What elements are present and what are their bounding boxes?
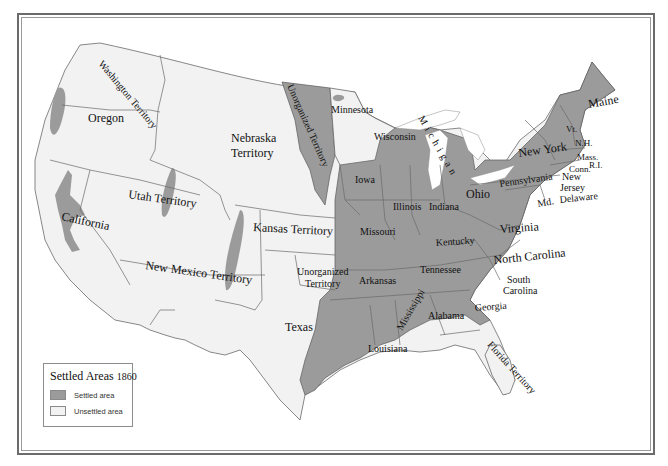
label-nebraska-territory-1: Nebraska [231,131,277,145]
label-ohio: Ohio [466,187,490,201]
label-louisiana: Louisiana [368,343,408,354]
legend: Settled Areas 1860 Settled area Unsettle… [43,363,133,427]
label-tennessee: Tennessee [420,264,462,275]
label-minnesota: Minnesota [331,104,374,115]
label-arkansas: Arkansas [359,275,396,286]
legend-title-text: Settled Areas [50,369,114,383]
label-missouri: Missouri [360,226,396,237]
label-south-carolina-1: South [507,274,530,285]
legend-year: 1860 [117,371,137,382]
label-virginia: Virginia [499,219,540,236]
label-new-hampshire: N.H. [575,138,593,148]
label-oregon: Oregon [88,111,124,125]
label-unorganized-territory-south-2: Territory [305,278,340,289]
label-illinois: Illinois [393,201,421,212]
label-connecticut: Conn. [569,164,591,174]
label-south-carolina-2: Carolina [503,285,538,296]
settled-swatch-icon [50,390,66,400]
label-alabama: Alabama [428,310,465,321]
legend-label-unsettled: Unsettled area [74,407,123,416]
unsettled-swatch-icon [50,406,66,416]
label-wisconsin: Wisconsin [374,131,416,142]
legend-title: Settled Areas 1860 [50,369,126,384]
label-unorganized-territory-south-1: Unorganized [297,266,348,277]
label-georgia: Georgia [474,300,507,313]
legend-item-settled: Settled area [50,390,126,400]
label-iowa: Iowa [355,174,376,185]
legend-label-settled: Settled area [74,391,114,400]
label-indiana: Indiana [429,201,460,212]
legend-item-unsettled: Unsettled area [50,406,126,416]
label-nebraska-territory-2: Territory [231,146,273,160]
label-maryland: Md. [536,195,554,209]
label-texas: Texas [285,320,313,334]
label-rhode-island: R.I. [589,160,603,170]
label-vermont: Vt. [566,124,577,134]
